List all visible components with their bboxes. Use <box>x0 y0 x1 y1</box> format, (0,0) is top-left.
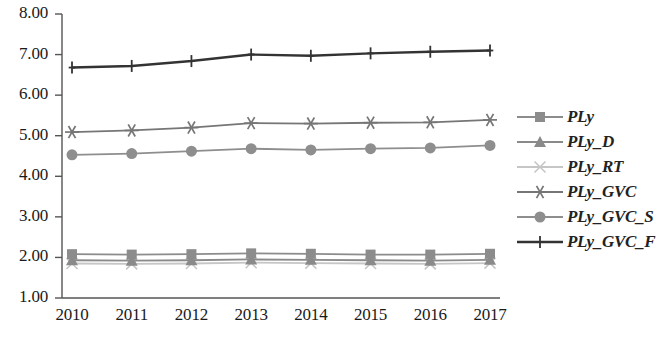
marker-circle <box>535 211 546 222</box>
legend-label: PLy_RT <box>567 157 623 177</box>
series-ply-gvc-f <box>69 45 494 74</box>
y-axis-tick-label: 3.00 <box>2 206 48 226</box>
legend-item-ply-gvc-s[interactable]: PLy_GVC_S <box>516 204 655 229</box>
marker-circle <box>425 142 436 153</box>
x-axis-tick-label: 2017 <box>462 305 518 325</box>
legend-label: PLy <box>567 107 594 127</box>
marker-square <box>186 249 196 259</box>
legend-marker-plus-icon <box>516 231 564 253</box>
y-axis-tick-label: 5.00 <box>2 125 48 145</box>
y-axis-tick-label: 6.00 <box>2 84 48 104</box>
marker-square <box>485 249 495 259</box>
marker-square <box>306 249 316 259</box>
line-chart: 1.002.003.004.005.006.007.008.00 2010201… <box>0 0 670 337</box>
y-axis-tick-label: 1.00 <box>2 287 48 307</box>
x-axis-tick-label: 2012 <box>163 305 219 325</box>
marker-square <box>425 250 435 260</box>
marker-circle <box>186 146 197 157</box>
marker-circle <box>246 143 257 154</box>
legend-marker-asterisk-icon <box>516 181 564 203</box>
marker-square <box>366 250 376 260</box>
chart-legend: PLyPLy_DPLy_RTPLy_GVCPLy_GVC_SPLy_GVC_F <box>516 104 655 254</box>
legend-marker-triangle-icon <box>516 131 564 153</box>
series-ply-gvc <box>65 114 497 138</box>
marker-circle <box>67 149 78 160</box>
series-line <box>72 51 490 68</box>
legend-marker-circle-icon <box>516 206 564 228</box>
y-axis-tick-label: 7.00 <box>2 44 48 64</box>
legend-marker-x-icon <box>516 156 564 178</box>
legend-item-ply-gvc[interactable]: PLy_GVC <box>516 179 655 204</box>
x-axis-tick-label: 2011 <box>104 305 160 325</box>
legend-marker-square-icon <box>516 106 564 128</box>
x-axis-tick-label: 2016 <box>402 305 458 325</box>
legend-item-ply[interactable]: PLy <box>516 104 655 129</box>
marker-square <box>127 250 137 260</box>
legend-item-ply-gvc-f[interactable]: PLy_GVC_F <box>516 229 655 254</box>
marker-circle <box>126 148 137 159</box>
series-ply-gvc-s <box>67 140 496 160</box>
marker-square <box>246 248 256 258</box>
x-axis-tick-label: 2015 <box>343 305 399 325</box>
y-axis-tick-label: 8.00 <box>2 3 48 23</box>
marker-square <box>535 112 545 122</box>
marker-circle <box>305 144 316 155</box>
x-axis-tick-label: 2013 <box>223 305 279 325</box>
marker-square <box>67 249 77 259</box>
marker-circle <box>485 140 496 151</box>
x-axis-tick-label: 2014 <box>283 305 339 325</box>
legend-label: PLy_GVC <box>567 182 636 202</box>
series-ply <box>67 248 495 259</box>
y-axis-tick-label: 2.00 <box>2 246 48 266</box>
legend-item-ply-rt[interactable]: PLy_RT <box>516 154 655 179</box>
marker-circle <box>365 143 376 154</box>
legend-label: PLy_GVC_F <box>567 232 655 252</box>
legend-label: PLy_GVC_S <box>567 207 653 227</box>
x-axis-tick-label: 2010 <box>44 305 100 325</box>
legend-label: PLy_D <box>567 132 614 152</box>
legend-item-ply-d[interactable]: PLy_D <box>516 129 655 154</box>
y-axis-tick-label: 4.00 <box>2 165 48 185</box>
